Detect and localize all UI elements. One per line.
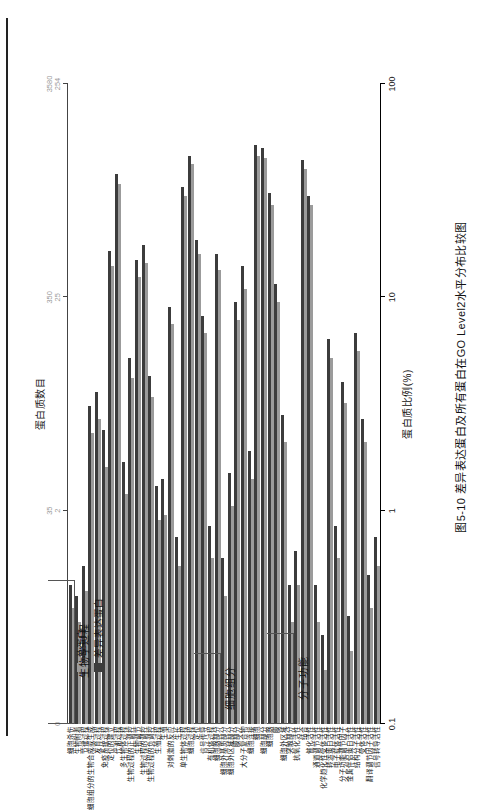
- bar-group: [114, 84, 121, 724]
- category-label: 有机体过程: [208, 726, 215, 761]
- go-group-bracket: [267, 633, 294, 724]
- bar-group: [353, 84, 360, 724]
- bar-group: [314, 84, 321, 724]
- legend-label-deg: 差异表达蛋白: [91, 598, 105, 658]
- bar-group: [320, 84, 327, 724]
- category-label: 结构分子活性: [354, 726, 361, 768]
- bar-group: [367, 84, 374, 724]
- bar-group: [340, 84, 347, 724]
- bar-group: [300, 84, 307, 724]
- category-label: 膜部分: [234, 726, 241, 747]
- x-tick-label: 0.1: [387, 718, 397, 731]
- figure-caption: 图5-10 差异表达蛋白及所有蛋白在GO Level2水平分布比较图: [452, 0, 468, 754]
- bar-group: [287, 84, 294, 724]
- bar-group: [234, 84, 241, 724]
- category-label: 细胞组分的生物合成或生成: [88, 726, 95, 810]
- bar-group: [148, 84, 155, 724]
- category-label: 多生物体过程: [121, 726, 128, 768]
- category-label: 代谢过程: [115, 726, 122, 754]
- category-label: 细胞杀伤: [68, 726, 75, 754]
- category-label: 分子功能调节因子: [340, 726, 347, 782]
- x-tick-label: 100: [387, 76, 397, 91]
- bar-group: [201, 84, 208, 724]
- bar-group: [274, 84, 281, 724]
- category-label: 金属伴侣蛋白活性: [347, 726, 354, 782]
- category-label: 化学趋化性受体活性: [321, 726, 328, 789]
- category-label: 通道调节活性: [314, 726, 321, 768]
- plot-area: [68, 84, 380, 724]
- bar-group: [128, 84, 135, 724]
- category-label: 细胞外区域部分: [228, 726, 235, 775]
- bar-group: [121, 84, 128, 724]
- category-label: 生物调节: [135, 726, 142, 754]
- bar-group: [134, 84, 141, 724]
- category-label: 电子载体活性: [334, 726, 341, 768]
- top-tick-label: 35025: [46, 291, 62, 304]
- bar-group: [168, 84, 175, 724]
- go-group-bracket: [194, 653, 221, 724]
- category-label: 对刺激的反应: [168, 726, 175, 768]
- top-axis-title: 蛋白质数目: [32, 84, 47, 724]
- go-group-name: 分子功能: [295, 631, 310, 724]
- bar-group: [187, 84, 194, 724]
- bar-group: [307, 84, 314, 724]
- category-label: 细胞部分: [261, 726, 268, 754]
- go-group-name: 生物学过程: [76, 578, 91, 724]
- bar-group: [280, 84, 287, 724]
- bar-group: [241, 84, 248, 724]
- bottom-axis-protein-ratio: 蛋白质比例(%) 0.1110100: [380, 84, 414, 724]
- category-label: 生物过程的调控: [141, 726, 148, 775]
- bar-group: [247, 84, 254, 724]
- x-tick-label: 10: [387, 292, 397, 302]
- go-level2-bar-chart: 蛋白质数目 0352350253580254 细胞杀伤生物附着节律过程细胞组分的…: [46, 84, 418, 724]
- category-label: 定位的建立: [108, 726, 115, 761]
- category-label: 大分子复合物: [241, 726, 248, 768]
- bar-group: [181, 84, 188, 724]
- category-label: 信号传导: [201, 726, 208, 754]
- bar-group: [347, 84, 354, 724]
- x-axis-title: 蛋白质比例(%): [399, 84, 414, 724]
- category-label: 突触部分: [287, 726, 294, 754]
- bar-group: [327, 84, 334, 724]
- bar-group: [360, 84, 367, 724]
- bar-group: [227, 84, 234, 724]
- bar-group: [194, 84, 201, 724]
- category-label: 生长: [175, 726, 182, 740]
- bar-group: [108, 84, 115, 724]
- category-label: 翻译调节因子活性: [367, 726, 374, 782]
- category-label: 细胞外基质部分: [221, 726, 228, 775]
- category-label: 生物过程的负调控: [148, 726, 155, 782]
- category-label: 信号转导活性: [374, 726, 381, 768]
- category-label: 细胞器部分: [214, 726, 221, 761]
- category-label: 细胞外区域: [281, 726, 288, 761]
- x-tick: [380, 83, 385, 84]
- category-label: 节律过程: [82, 726, 89, 754]
- category-label: 细胞连接: [248, 726, 255, 754]
- category-label: 转运蛋白活性: [327, 726, 334, 768]
- x-tick: [380, 723, 385, 724]
- legend-swatch-deg: [94, 663, 103, 672]
- bar-group: [221, 84, 228, 724]
- x-tick: [380, 510, 385, 511]
- category-label: 抗氧化活性: [294, 726, 301, 761]
- bar-group: [141, 84, 148, 724]
- bar-group: [174, 84, 181, 724]
- bar-group: [161, 84, 168, 724]
- category-label: 生物附着: [75, 726, 82, 754]
- go-group-name: 细胞组分: [222, 651, 237, 724]
- category-label: 受体活性: [360, 726, 367, 754]
- bar-group: [214, 84, 221, 724]
- category-label: 生殖: [161, 726, 168, 740]
- top-tick-label: 3580254: [46, 76, 62, 93]
- category-label: 生物过程的正调控: [128, 726, 135, 782]
- category-label: 结合: [301, 726, 308, 740]
- category-label: 催化活性: [307, 726, 314, 754]
- bar-group: [207, 84, 214, 724]
- bar-group: [373, 84, 380, 724]
- category-label: 细胞: [254, 726, 261, 740]
- category-label: 发育过程: [95, 726, 102, 754]
- category-label: 膜: [274, 726, 281, 733]
- top-tick-label: 352: [46, 507, 62, 515]
- bar-group: [261, 84, 268, 724]
- bar-group: [334, 84, 341, 724]
